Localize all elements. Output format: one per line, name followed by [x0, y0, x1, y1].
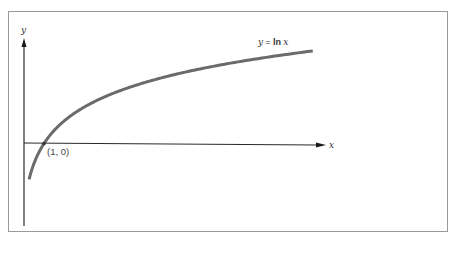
curve-label: y = ln x	[257, 37, 288, 47]
x-axis-arrowhead-icon	[316, 143, 326, 148]
ln-curve	[29, 51, 313, 179]
y-axis-arrowhead-icon	[22, 38, 27, 47]
plot-area: y x (1, 0) y = ln x	[0, 0, 458, 253]
point-1-0-marker	[42, 142, 46, 146]
curve-label-ln: ln	[273, 37, 281, 47]
x-axis-label: x	[329, 140, 334, 150]
curve-label-eq: =	[265, 37, 273, 47]
curve-label-y: y	[257, 37, 264, 47]
point-label: (1, 0)	[47, 146, 69, 157]
curve-label-x: x	[283, 37, 288, 47]
x-axis	[24, 143, 318, 145]
y-axis-label: y	[20, 25, 27, 35]
